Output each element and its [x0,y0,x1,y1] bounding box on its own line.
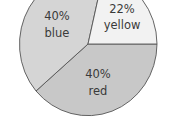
label-red-pct: 40% [85,67,111,81]
label-yellow-name: yellow [104,18,141,32]
pie-chart: 22% yellow 40% blue 40% red [0,0,176,125]
label-red-name: red [89,84,108,98]
label-blue-pct: 40% [44,9,70,23]
label-yellow-pct: 22% [109,2,135,16]
label-blue-name: blue [45,26,70,40]
